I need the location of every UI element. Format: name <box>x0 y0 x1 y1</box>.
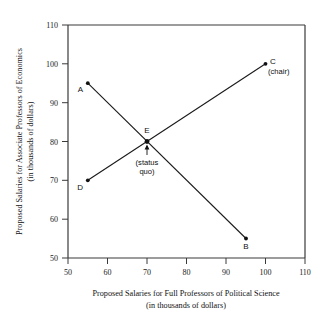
x-axis-subtitle: (in thousands of dollars) <box>146 301 226 310</box>
status-quo-arrow-head-icon <box>145 145 150 150</box>
y-axis-title-group: Proposed Salaries for Associate Professo… <box>15 48 35 235</box>
y-tick-label-60: 60 <box>50 215 58 224</box>
chart-svg: 110 100 90 80 70 60 50 50 60 70 80 90 10… <box>0 0 329 318</box>
x-axis-title: Proposed Salaries for Full Professors of… <box>92 289 280 298</box>
y-tick-label-100: 100 <box>46 60 58 69</box>
y-tick-label-90: 90 <box>50 99 58 108</box>
y-tick-label-80: 80 <box>50 138 58 147</box>
data-point-e <box>145 139 150 144</box>
x-tick-label-90: 90 <box>222 268 230 277</box>
x-axis-title-group: Proposed Salaries for Full Professors of… <box>92 289 280 310</box>
series-line-dc <box>86 62 268 182</box>
x-tick-label-70: 70 <box>143 268 151 277</box>
line-d-to-c <box>88 64 266 181</box>
chart-figure: 110 100 90 80 70 60 50 50 60 70 80 90 10… <box>0 0 329 318</box>
data-point-label-e: E <box>144 126 149 135</box>
data-point-d <box>86 178 90 182</box>
data-point-note-c: (chair) <box>268 67 290 76</box>
status-quo-note-line2: quo) <box>139 167 155 176</box>
y-tick-label-50: 50 <box>50 254 58 263</box>
data-point-label-d: D <box>77 183 83 192</box>
data-point-b <box>244 237 248 241</box>
data-point-label-b: B <box>243 242 248 251</box>
x-tick-label-110: 110 <box>299 268 311 277</box>
line-a-to-b <box>88 83 246 238</box>
series-line-ab <box>86 81 248 240</box>
data-point-label-c: C <box>270 57 276 66</box>
y-tick-label-110: 110 <box>46 21 58 30</box>
x-tick-label-80: 80 <box>183 268 191 277</box>
y-axis-subtitle: (in thousands of dollars) <box>26 101 35 181</box>
intersection-point-e <box>145 139 150 144</box>
y-axis-title: Proposed Salaries for Associate Professo… <box>15 48 24 235</box>
x-tick-label-50: 50 <box>64 268 72 277</box>
data-point-label-a: A <box>78 85 84 94</box>
x-tick-label-100: 100 <box>260 268 272 277</box>
data-point-a <box>86 81 90 85</box>
status-quo-note-line1: (status <box>136 158 159 167</box>
x-tick-label-60: 60 <box>104 268 112 277</box>
x-axis-ticks: 50 60 70 80 90 100 110 <box>64 258 311 277</box>
data-point-labels: A B C (chair) D E <box>77 57 290 251</box>
y-tick-label-70: 70 <box>50 176 58 185</box>
y-axis-ticks: 110 100 90 80 70 60 50 <box>46 21 68 263</box>
data-point-c <box>264 62 268 66</box>
